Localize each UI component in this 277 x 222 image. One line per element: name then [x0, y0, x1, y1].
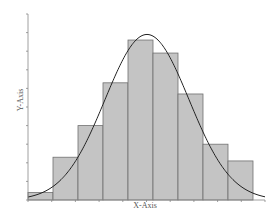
histogram-bar	[228, 161, 253, 200]
histogram-bar	[128, 40, 153, 200]
histogram-chart	[0, 0, 277, 222]
histogram-bar	[178, 94, 203, 200]
histogram-bar	[78, 126, 103, 200]
histogram-bar	[203, 144, 228, 200]
histogram-bar	[153, 53, 178, 200]
y-axis-title: Y-Axis	[16, 89, 25, 112]
histogram-bars	[28, 40, 253, 200]
x-axis-title: X-Axis	[0, 201, 277, 210]
histogram-bar	[103, 83, 128, 200]
